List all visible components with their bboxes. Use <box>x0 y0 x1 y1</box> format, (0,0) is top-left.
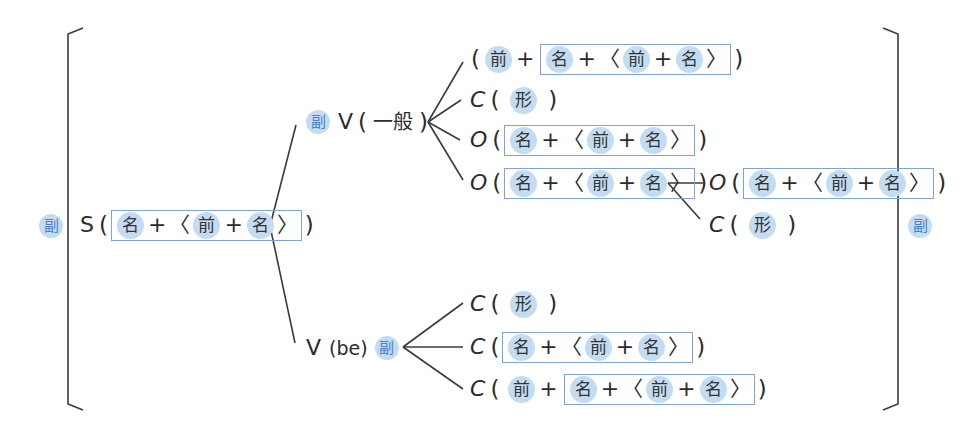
complement-be-2: C ( 前 + 名 + 〈 前 + 名 〉 ) <box>470 373 770 405</box>
phrase-box: 名 + 〈 前 + 名 〉 <box>504 125 695 156</box>
phrase-box: 名 + 〈 前 + 名 〉 <box>743 168 934 199</box>
adverb-pill: 副 <box>908 214 932 238</box>
prep-pill: 前 <box>193 212 220 239</box>
branch-line-s-to-v-be <box>270 226 295 343</box>
phrase-box: 名 + 〈 前 + 名 〉 <box>540 44 731 75</box>
phrase-box: 名 + 〈 前 + 名 〉 <box>504 168 695 199</box>
adj-pill: 形 <box>749 212 776 239</box>
complement-general-3: O ( 名 + 〈 前 + 名 〉 ) <box>470 167 710 199</box>
right-adverb: 副 <box>906 210 934 242</box>
verb-kind: (be) <box>329 339 368 358</box>
noun-pill: 名 <box>117 212 144 239</box>
right-bracket <box>883 28 898 410</box>
phrase-box: 名 + 〈 前 + 名 〉 <box>564 374 755 405</box>
left-adverb: 副 <box>37 210 65 242</box>
complement-be-1: C ( 名 + 〈 前 + 名 〉 ) <box>470 331 708 363</box>
complement-general-0: ( 前 + 名 + 〈 前 + 名 〉 ) <box>468 43 746 75</box>
complement-be-0: C ( 形 ) <box>470 288 560 320</box>
subject-phrase-box: 名 + 〈 前 + 名 〉 <box>111 210 302 241</box>
adverb-pill: 副 <box>375 336 399 360</box>
role-s: S <box>80 214 94 236</box>
complement-general-1: C ( 形 ) <box>470 84 560 116</box>
adj-pill: 形 <box>510 87 537 114</box>
sub-complement-0: O ( 名 + 〈 前 + 名 〉 ) <box>709 167 949 199</box>
role-v: V <box>306 337 321 359</box>
complement-general-2: O ( 名 + 〈 前 + 名 〉 ) <box>470 124 710 156</box>
noun-pill: 名 <box>247 212 274 239</box>
phrase-box: 名 + 〈 前 + 名 〉 <box>502 332 693 363</box>
sub-complement-1: C ( 形 ) <box>709 209 799 241</box>
role-v: V <box>338 111 353 133</box>
verb-kind: 一般 <box>373 112 413 132</box>
verb-be-node: V (be) 副 <box>306 332 401 364</box>
adverb-pill: 副 <box>306 110 330 134</box>
adverb-pill: 副 <box>39 214 63 238</box>
adj-pill: 形 <box>510 291 537 318</box>
verb-general-node: 副 V ( 一般 ) <box>304 106 431 138</box>
subject-node: S ( 名 + 〈 前 + 名 〉 ) <box>80 209 317 241</box>
